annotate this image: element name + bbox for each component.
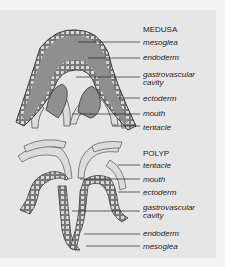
medusa-title: MEDUSA: [143, 26, 177, 33]
polyp-label-endoderm: endoderm: [143, 230, 179, 237]
medusa-label-mouth: mouth: [143, 110, 165, 117]
polyp-label-mouth: mouth: [143, 176, 165, 183]
medusa-label-tentacle: tentacle: [143, 124, 171, 131]
medusa-label-ectoderm: ectoderm: [143, 95, 176, 102]
polyp-label-mesoglea: mesoglea: [143, 243, 178, 250]
medusa-label-cavity: cavity: [143, 79, 163, 86]
polyp-label-ectoderm: ectoderm: [143, 189, 176, 196]
medusa-label-gastrovascular: gastrovascular: [143, 71, 195, 78]
medusa-label-mesoglea: mesoglea: [143, 39, 178, 46]
medusa-figure: [16, 30, 140, 130]
medusa-label-endoderm: endoderm: [143, 54, 179, 61]
polyp-label-tentacle: tentacle: [143, 162, 171, 169]
polyp-label-gastrovascular: gastrovascular: [143, 204, 195, 211]
polyp-label-cavity: cavity: [143, 212, 163, 219]
polyp-figure: [18, 140, 140, 250]
cnidarian-body-plans-illustration: [0, 0, 225, 267]
polyp-title: POLYP: [143, 150, 169, 157]
